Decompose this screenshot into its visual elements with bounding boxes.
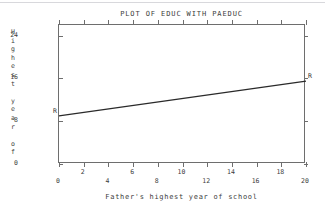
x-tick-bottom <box>257 162 258 167</box>
y-label-gap <box>6 88 20 97</box>
x-tick-top <box>257 20 258 25</box>
x-tick-top <box>133 20 134 25</box>
data-layer <box>59 25 306 164</box>
x-tick-top <box>84 20 85 25</box>
x-tick-label: 6 <box>124 168 140 176</box>
y-tick-left <box>59 78 63 79</box>
x-tick-label: 12 <box>198 177 214 185</box>
x-tick-bottom <box>207 162 208 167</box>
y-tick-label: 0 <box>14 159 18 167</box>
chart-title: PLOT OF EDUC WITH PAEDUC <box>58 10 305 18</box>
y-label-char: e <box>6 62 20 71</box>
y-tick-right <box>304 36 308 37</box>
y-label-char: y <box>6 97 20 106</box>
x-tick-bottom <box>133 162 134 167</box>
y-tick-label: 8 <box>14 116 18 124</box>
x-tick-label: 18 <box>272 168 288 176</box>
x-tick-label: 14 <box>223 168 239 176</box>
y-label-char: h <box>6 54 20 63</box>
x-tick-label: 20 <box>297 177 313 185</box>
y-axis-label: Highestyearof <box>6 28 20 157</box>
x-tick-label: 8 <box>149 177 165 185</box>
x-tick-bottom <box>232 162 233 167</box>
x-tick-top <box>207 20 208 25</box>
y-tick-left <box>59 36 63 37</box>
y-tick-left <box>59 121 63 122</box>
x-tick-top <box>306 20 307 25</box>
y-tick-right <box>304 164 308 165</box>
x-tick-top <box>281 20 282 25</box>
top-divider <box>0 2 325 3</box>
x-tick-label: 0 <box>50 177 66 185</box>
x-tick-bottom <box>158 162 159 167</box>
plot-screen: PLOT OF EDUC WITH PAEDUC Highestyearof F… <box>0 0 325 210</box>
x-axis-label: Father's highest year of school <box>58 193 305 201</box>
plot-frame <box>58 24 305 163</box>
x-tick-label: 2 <box>75 168 91 176</box>
y-label-gap <box>6 131 20 140</box>
y-tick-label: 16 <box>10 73 18 81</box>
x-tick-top <box>183 20 184 25</box>
y-tick-left <box>59 164 63 165</box>
x-tick-label: 10 <box>174 168 190 176</box>
y-tick-label: 24 <box>10 31 18 39</box>
x-tick-top <box>59 20 60 25</box>
y-tick-right <box>304 121 308 122</box>
x-tick-bottom <box>108 162 109 167</box>
y-label-char: e <box>6 105 20 114</box>
x-tick-label: 4 <box>99 177 115 185</box>
y-label-char: o <box>6 140 20 149</box>
x-tick-top <box>108 20 109 25</box>
x-tick-bottom <box>84 162 85 167</box>
y-label-char: f <box>6 148 20 157</box>
regression-line <box>59 81 306 116</box>
data-point-marker: R <box>53 107 57 115</box>
data-point-marker: R <box>308 72 312 80</box>
x-tick-label: 16 <box>248 177 264 185</box>
y-label-char: g <box>6 45 20 54</box>
x-tick-top <box>232 20 233 25</box>
x-tick-top <box>158 20 159 25</box>
x-tick-bottom <box>281 162 282 167</box>
x-tick-bottom <box>183 162 184 167</box>
